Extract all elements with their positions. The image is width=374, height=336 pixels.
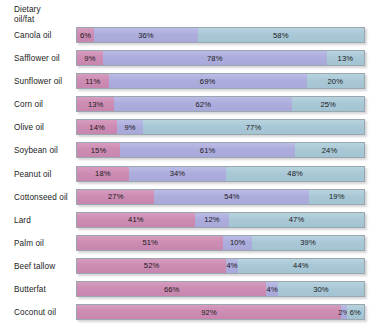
row-label-cottonseed-oil: Cottonseed oil xyxy=(14,192,68,201)
bar-segment-saturated: 9% xyxy=(77,51,103,65)
stacked-bar: 18%34%48% xyxy=(76,166,365,182)
bar-segment-polyunsaturated: 34% xyxy=(129,167,227,181)
bar-segment-monounsaturated: 77% xyxy=(143,120,364,134)
bar-segment-saturated: 66% xyxy=(77,282,266,296)
bar-segment-saturated: 41% xyxy=(77,213,195,227)
segment-value-label: 48% xyxy=(287,169,303,178)
segment-value-label: 77% xyxy=(246,123,262,132)
chart-row: Lard41%12%47% xyxy=(0,212,374,228)
bar-segment-saturated: 13% xyxy=(77,97,114,111)
bar-segment-saturated: 18% xyxy=(77,167,129,181)
segment-value-label: 62% xyxy=(196,100,212,109)
segment-value-label: 36% xyxy=(138,31,154,40)
segment-value-label: 10% xyxy=(230,238,246,247)
row-label-sunflower-oil: Sunflower oil xyxy=(14,77,62,86)
row-label-coconut-oil: Coconut oil xyxy=(14,308,56,317)
row-label-beef-tallow: Beef tallow xyxy=(14,261,55,270)
bar-segment-saturated: 52% xyxy=(77,259,226,273)
bar-segment-saturated: 11% xyxy=(77,74,109,88)
bar-segment-monounsaturated: 19% xyxy=(309,190,364,204)
row-label-canola-oil: Canola oil xyxy=(14,31,51,40)
chart-rows: Canola oil6%36%58%Safflower oil9%78%13%S… xyxy=(0,27,374,327)
bar-segment-saturated: 27% xyxy=(77,190,154,204)
segment-value-label: 39% xyxy=(300,238,316,247)
segment-value-label: 61% xyxy=(200,146,216,155)
bar-segment-polyunsaturated: 4% xyxy=(266,282,277,296)
stacked-bar: 13%62%25% xyxy=(76,96,365,112)
segment-value-label: 9% xyxy=(84,54,95,63)
segment-value-label: 9% xyxy=(125,123,136,132)
bar-segment-monounsaturated: 58% xyxy=(198,28,364,42)
row-label-lard: Lard xyxy=(14,215,31,224)
bar-segment-monounsaturated: 30% xyxy=(278,282,364,296)
segment-value-label: 58% xyxy=(273,31,289,40)
stacked-bar: 11%69%20% xyxy=(76,73,365,89)
row-label-corn-oil: Corn oil xyxy=(14,100,43,109)
stacked-bar: 15%61%24% xyxy=(76,142,365,158)
segment-value-label: 52% xyxy=(144,261,160,270)
bar-segment-polyunsaturated: 78% xyxy=(103,51,327,65)
bar-segment-polyunsaturated: 12% xyxy=(195,213,229,227)
segment-value-label: 12% xyxy=(204,215,220,224)
axis-title-line1: Dietary xyxy=(14,5,41,14)
chart-row: Butterfat66%4%30% xyxy=(0,281,374,297)
bar-segment-polyunsaturated: 69% xyxy=(109,74,307,88)
segment-value-label: 6% xyxy=(80,31,91,40)
segment-value-label: 14% xyxy=(89,123,105,132)
segment-value-label: 54% xyxy=(224,192,240,201)
segment-value-label: 11% xyxy=(85,77,100,86)
bar-segment-polyunsaturated: 54% xyxy=(154,190,309,204)
row-label-soybean-oil: Soybean oil xyxy=(14,146,58,155)
bar-segment-monounsaturated: 25% xyxy=(292,97,364,111)
chart-row: Canola oil6%36%58% xyxy=(0,27,374,43)
bar-segment-monounsaturated: 13% xyxy=(327,51,364,65)
segment-value-label: 69% xyxy=(200,77,216,86)
stacked-bar: 14%9%77% xyxy=(76,119,365,135)
chart-row: Soybean oil15%61%24% xyxy=(0,142,374,158)
bar-segment-monounsaturated: 20% xyxy=(307,74,364,88)
chart-row: Safflower oil9%78%13% xyxy=(0,50,374,66)
bar-segment-polyunsaturated: 36% xyxy=(94,28,197,42)
bar-segment-saturated: 92% xyxy=(77,305,341,319)
chart-row: Olive oil14%9%77% xyxy=(0,119,374,135)
row-label-olive-oil: Olive oil xyxy=(14,123,44,132)
segment-value-label: 18% xyxy=(95,169,111,178)
bar-segment-monounsaturated: 24% xyxy=(295,143,364,157)
segment-value-label: 25% xyxy=(320,100,336,109)
segment-value-label: 4% xyxy=(226,261,237,270)
chart-row: Palm oil51%10%39% xyxy=(0,235,374,251)
bar-segment-polyunsaturated: 4% xyxy=(226,259,237,273)
stacked-bar: 6%36%58% xyxy=(76,27,365,43)
segment-value-label: 47% xyxy=(289,215,305,224)
stacked-bar: 51%10%39% xyxy=(76,235,365,251)
bar-segment-saturated: 51% xyxy=(77,236,223,250)
segment-value-label: 44% xyxy=(293,261,309,270)
chart-row: Cottonseed oil27%54%19% xyxy=(0,189,374,205)
segment-value-label: 41% xyxy=(128,215,144,224)
stacked-bar-chart: Dietaryoil/fat Canola oil6%36%58%Safflow… xyxy=(0,0,374,336)
segment-value-label: 15% xyxy=(91,146,107,155)
stacked-bar: 27%54%19% xyxy=(76,189,365,205)
bar-segment-saturated: 6% xyxy=(77,28,94,42)
segment-value-label: 66% xyxy=(164,285,180,294)
chart-row: Peanut oil18%34%48% xyxy=(0,166,374,182)
chart-row: Corn oil13%62%25% xyxy=(0,96,374,112)
chart-row: Sunflower oil11%69%20% xyxy=(0,73,374,89)
bar-segment-saturated: 15% xyxy=(77,143,120,157)
stacked-bar: 92%2%6% xyxy=(76,304,365,320)
axis-title-line2: oil/fat xyxy=(14,15,34,24)
bar-segment-monounsaturated: 48% xyxy=(226,167,364,181)
segment-value-label: 24% xyxy=(322,146,338,155)
segment-value-label: 13% xyxy=(338,54,354,63)
bar-segment-monounsaturated: 47% xyxy=(229,213,364,227)
segment-value-label: 13% xyxy=(88,100,104,109)
segment-value-label: 19% xyxy=(329,192,345,201)
stacked-bar: 66%4%30% xyxy=(76,281,365,297)
segment-value-label: 4% xyxy=(267,285,278,294)
segment-value-label: 6% xyxy=(350,308,361,317)
bar-segment-monounsaturated: 6% xyxy=(347,305,364,319)
chart-row: Beef tallow52%4%44% xyxy=(0,258,374,274)
segment-value-label: 51% xyxy=(142,238,158,247)
bar-segment-polyunsaturated: 61% xyxy=(120,143,295,157)
bar-segment-saturated: 14% xyxy=(77,120,117,134)
